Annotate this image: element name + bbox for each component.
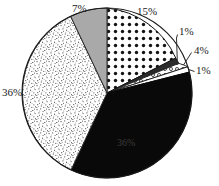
pie-chart: 7% 15% 1% 4% 1% 36% 36% (0, 0, 219, 186)
pie-label-1-percent-a: 1% (179, 26, 194, 37)
pie-slices (22, 8, 191, 178)
pie-label-36-percent-black: 36% (117, 138, 135, 148)
leader-line-1-percent-a (177, 35, 178, 61)
pie-label-36-percent-speckle: 36% (2, 87, 22, 98)
pie-label-1-percent-b: 1% (196, 65, 211, 76)
pie-label-4-percent: 4% (194, 45, 209, 56)
pie-label-15-percent: 15% (137, 6, 157, 17)
pie-label-7-percent: 7% (72, 3, 87, 14)
